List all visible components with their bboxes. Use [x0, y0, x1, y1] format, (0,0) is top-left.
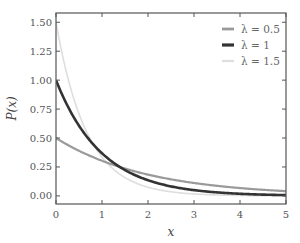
legend-label: λ = 0.5 — [241, 23, 280, 35]
y-tick-label: 1.00 — [30, 75, 52, 86]
y-tick-label: 0.50 — [30, 133, 52, 144]
y-tick-label: 0.00 — [30, 190, 52, 201]
y-tick-label: 0.75 — [30, 104, 52, 115]
x-axis-label: x — [168, 225, 175, 239]
legend-label: λ = 1 — [241, 39, 270, 51]
legend-label: λ = 1.5 — [241, 55, 280, 67]
y-tick-label: 1.25 — [30, 46, 52, 57]
exponential-distribution-chart: 012345 0.000.250.500.751.001.251.50 x P(… — [0, 0, 300, 243]
curve-lambda-0-5 — [56, 138, 286, 191]
x-tick-label: 5 — [283, 209, 289, 220]
x-tick-label: 0 — [53, 209, 59, 220]
legend: λ = 0.5λ = 1λ = 1.5 — [222, 23, 280, 67]
x-tick-label: 4 — [237, 209, 243, 220]
curve-lambda-1 — [56, 80, 286, 195]
y-tick-label: 0.25 — [30, 161, 52, 172]
y-tick-label: 1.50 — [30, 17, 52, 28]
y-axis-label: P(x) — [5, 96, 19, 122]
x-tick-label: 3 — [191, 209, 197, 220]
x-tick-label: 2 — [145, 209, 151, 220]
x-tick-label: 1 — [99, 209, 105, 220]
